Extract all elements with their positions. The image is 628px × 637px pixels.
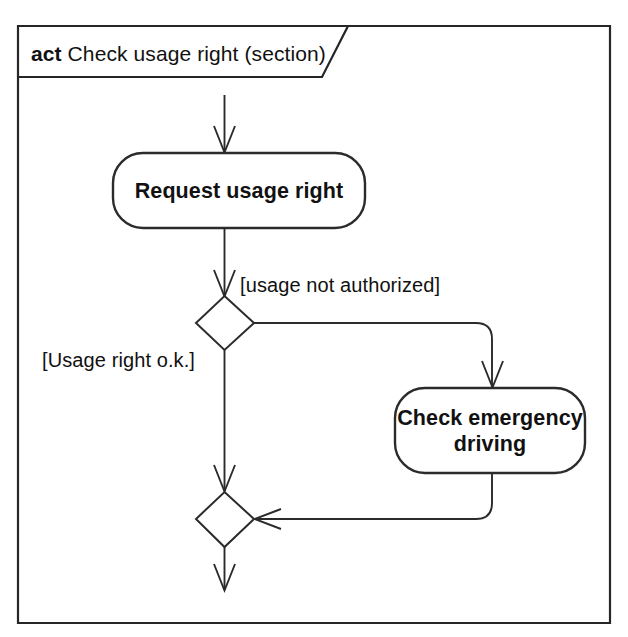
activity-diagram-canvas: act Check usage right (section) Request … xyxy=(0,0,628,637)
action-label-line-2: driving xyxy=(454,432,526,456)
frame-keyword: act xyxy=(31,42,62,65)
frame-title: act Check usage right (section) xyxy=(31,42,326,67)
action-label-request-usage-right: Request usage right xyxy=(113,179,365,204)
merge-node[interactable] xyxy=(196,492,254,547)
guard-label-usage-right-ok: [Usage right o.k.] xyxy=(42,349,195,373)
decision-node-usage-right[interactable] xyxy=(196,296,254,350)
diagram-vector-layer xyxy=(0,0,628,637)
action-label-check-emergency-driving: Check emergencydriving xyxy=(395,405,585,457)
action-label-line-1: Check emergency xyxy=(397,406,583,430)
guard-label-usage-not-authorized: [usage not authorized] xyxy=(240,274,440,298)
frame-name: Check usage right (section) xyxy=(68,42,326,65)
edge-check-to-merge-line xyxy=(255,473,492,519)
activity-frame-border xyxy=(18,26,610,623)
edge-decision-to-check-line xyxy=(254,323,492,387)
